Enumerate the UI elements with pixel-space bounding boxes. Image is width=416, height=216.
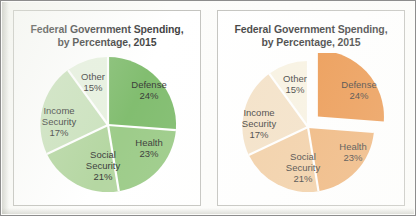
pie-label-income-security: Income Security 17% xyxy=(28,105,90,138)
chart-panel-right: Federal Government Spending, by Percenta… xyxy=(213,7,409,209)
chart-panel-right-border: Federal Government Spending, by Percenta… xyxy=(217,10,405,206)
pie-chart-right: Defense 24% Health 23% Social Security 2… xyxy=(218,53,404,203)
pie-label-other-name: Other xyxy=(283,73,307,84)
pie-label-income-security-name-line2: Security xyxy=(28,116,90,127)
pie-label-social-security-name-line1: Social xyxy=(290,151,316,162)
pie-label-social-security-name-line2: Security xyxy=(72,160,134,171)
chart-title-right-line2: by Percentage, 2015 xyxy=(218,36,404,49)
pie-label-defense-name: Defense xyxy=(341,79,376,90)
pie-label-defense-name: Defense xyxy=(131,79,166,90)
pie-label-defense-value: 24% xyxy=(328,90,390,101)
pie-label-other: Other 15% xyxy=(66,71,120,93)
pie-label-income-security-value: 17% xyxy=(228,129,290,140)
figure-frame: Federal Government Spending, by Percenta… xyxy=(0,0,416,216)
chart-title-left-line1: Federal Government Spending, xyxy=(31,23,184,35)
pie-label-social-security-name-line2: Security xyxy=(272,162,334,173)
chart-title-left-line2: by Percentage, 2015 xyxy=(14,36,200,49)
pie-label-other-value: 15% xyxy=(268,84,322,95)
chart-title-left: Federal Government Spending, by Percenta… xyxy=(14,23,200,49)
chart-panel-left: Federal Government Spending, by Percenta… xyxy=(9,7,205,209)
pie-label-health-name: Health xyxy=(339,141,366,152)
chart-panel-left-border: Federal Government Spending, by Percenta… xyxy=(13,10,201,206)
pie-label-income-security-value: 17% xyxy=(28,127,90,138)
pie-label-income-security: Income Security 17% xyxy=(228,107,290,140)
pie-label-defense: Defense 24% xyxy=(328,79,390,101)
pie-label-other: Other 15% xyxy=(268,73,322,95)
pie-chart-left: Defense 24% Health 23% Social Security 2… xyxy=(14,53,200,203)
pie-label-defense-value: 24% xyxy=(118,90,180,101)
pie-label-social-security-value: 21% xyxy=(272,173,334,184)
pie-label-health-name: Health xyxy=(135,137,162,148)
pie-label-defense: Defense 24% xyxy=(118,79,180,101)
pie-label-other-name: Other xyxy=(81,71,105,82)
chart-title-right-line1: Federal Government Spending, xyxy=(235,23,388,35)
pie-label-social-security: Social Security 21% xyxy=(72,149,134,182)
pie-label-social-security-name-line1: Social xyxy=(90,149,116,160)
pie-label-social-security-value: 21% xyxy=(72,171,134,182)
scan-shadow-left xyxy=(2,2,9,214)
pie-label-income-security-name-line1: Income xyxy=(243,107,274,118)
pie-label-income-security-name-line2: Security xyxy=(228,118,290,129)
pie-label-other-value: 15% xyxy=(66,82,120,93)
pie-label-social-security: Social Security 21% xyxy=(272,151,334,184)
chart-title-right: Federal Government Spending, by Percenta… xyxy=(218,23,404,49)
pie-label-income-security-name-line1: Income xyxy=(43,105,74,116)
